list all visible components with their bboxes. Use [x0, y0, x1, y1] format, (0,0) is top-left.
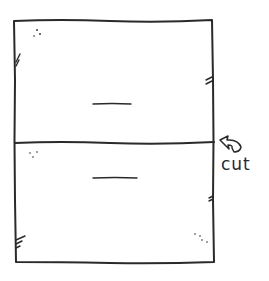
right-edge-tick-top [206, 77, 212, 84]
cut-line [15, 142, 214, 144]
left-edge-tick-top [16, 54, 20, 66]
cut-label: cut [221, 156, 251, 173]
left-edge-tick-bottom [16, 236, 25, 248]
bottom-center-mark [93, 178, 137, 179]
top-center-mark [93, 104, 131, 105]
curved-arrow-icon [220, 136, 241, 152]
texture-dots [29, 29, 208, 243]
sketch-canvas [0, 0, 269, 281]
